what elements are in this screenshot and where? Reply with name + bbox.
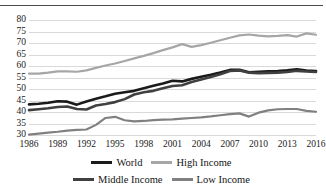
x-axis-tick: 1995: [106, 139, 125, 150]
legend-swatch-high-income: [151, 161, 172, 164]
y-axis-tick: 70: [0, 38, 26, 48]
line-low-income: [29, 109, 316, 135]
legend-label-low-income: Low Income: [197, 174, 250, 186]
x-axis-tick: 1986: [20, 139, 39, 150]
x-axis-tick: 1989: [48, 139, 67, 150]
y-axis-tick: 80: [0, 15, 26, 25]
plot-area: [29, 20, 316, 136]
header-divider: [0, 5, 323, 6]
y-axis-tick: 55: [0, 73, 26, 83]
x-axis-tick: 2016: [307, 139, 326, 150]
legend-row-1: World High Income: [0, 154, 323, 171]
y-axis-tick: 75: [0, 27, 26, 37]
line-high-income: [29, 33, 316, 73]
y-axis-tick: 60: [0, 61, 26, 71]
x-axis-tick: 2013: [278, 139, 297, 150]
legend-item-low-income[interactable]: Low Income: [172, 174, 250, 186]
x-axis-tick: 1998: [134, 139, 153, 150]
cropped-title: [180, 0, 300, 4]
legend-label-world: World: [116, 157, 142, 169]
y-axis-tick: 50: [0, 84, 26, 94]
legend-label-high-income: High Income: [176, 157, 231, 169]
series-lines: [29, 20, 316, 136]
legend-label-middle-income: Middle Income: [98, 174, 162, 186]
y-axis-tick: 35: [0, 119, 26, 129]
x-axis-tick: 2010: [249, 139, 268, 150]
legend-swatch-world: [91, 161, 112, 164]
y-axis-tick: 40: [0, 107, 26, 117]
legend-item-high-income[interactable]: High Income: [151, 157, 231, 169]
y-axis-tick: 65: [0, 50, 26, 60]
x-axis-tick: 1992: [77, 139, 96, 150]
legend-item-middle-income[interactable]: Middle Income: [73, 174, 162, 186]
x-axis-tick: 2007: [220, 139, 239, 150]
y-axis-labels: 8075706560555045403530: [0, 0, 26, 136]
x-axis-labels: 1986198919921995199820012004200720102013…: [0, 139, 323, 152]
x-axis-tick: 2004: [192, 139, 211, 150]
x-axis-tick: 2001: [163, 139, 182, 150]
legend-row-2: Middle Income Low Income: [0, 171, 323, 188]
y-axis-tick: 45: [0, 96, 26, 106]
legend-item-world[interactable]: World: [91, 157, 142, 169]
legend-swatch-middle-income: [73, 178, 94, 181]
chart-legend: World High Income Middle Income Low Inco…: [0, 154, 323, 190]
legend-swatch-low-income: [172, 178, 193, 181]
